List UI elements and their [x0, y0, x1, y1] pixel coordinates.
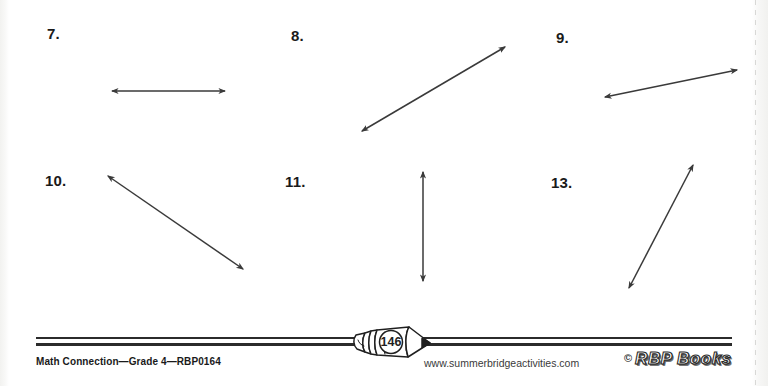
rbp-books-logo: © RBP Books: [624, 350, 732, 367]
worksheet-page: 7. 8. 9. 10. 11. 13.: [0, 0, 768, 386]
figure-line-8: [362, 47, 505, 131]
problem-number-10: 10.: [45, 172, 66, 189]
problem-number-8: 8.: [291, 27, 304, 44]
footer-website-url[interactable]: www.summerbridgeactivities.com: [424, 357, 579, 369]
problem-number-11: 11.: [285, 173, 306, 190]
figure-line-9: [605, 70, 737, 97]
rbp-books-wordmark: RBP Books: [635, 350, 731, 367]
copyright-symbol: ©: [624, 353, 632, 364]
line-figures-canvas: [0, 0, 768, 330]
figure-line-10: [108, 176, 243, 269]
page-edge-shadow-left: [0, 0, 9, 386]
problem-number-7: 7.: [47, 25, 60, 42]
footer-publication-info: Math Connection—Grade 4—RBP0164: [36, 356, 221, 367]
figure-line-13: [629, 165, 693, 288]
problem-number-9: 9.: [556, 29, 569, 46]
page-edge-dashed-line: [755, 0, 756, 386]
problem-number-13: 13.: [551, 174, 572, 191]
pencil-page-number-graphic: 146: [352, 320, 440, 360]
page-number-text: 146: [381, 335, 402, 349]
